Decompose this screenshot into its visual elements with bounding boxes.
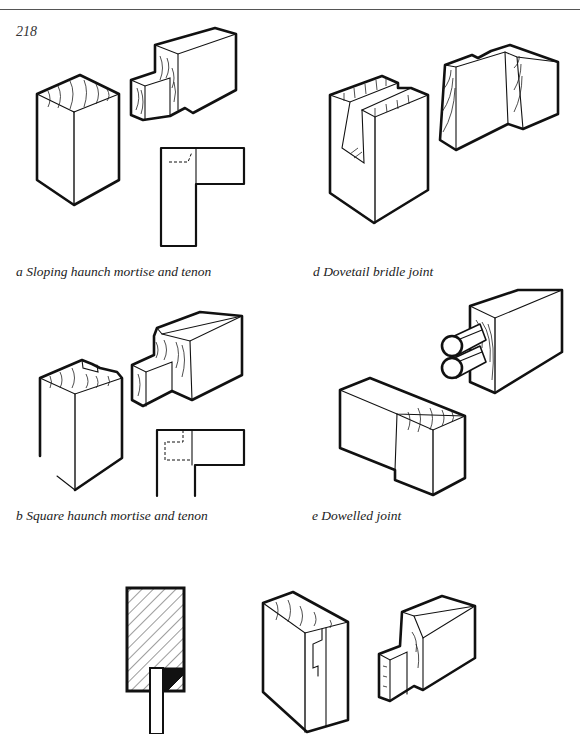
figure-d-dovetail-bridle xyxy=(290,20,580,260)
figure-a-sloping-haunch xyxy=(0,20,290,260)
header-rule xyxy=(0,9,580,10)
figure-e-caption: e Dowelled joint xyxy=(312,508,401,524)
figure-d-caption: d Dovetail bridle joint xyxy=(313,264,433,280)
figure-c-groove-section xyxy=(100,540,480,734)
figure-b-caption: b Square haunch mortise and tenon xyxy=(16,508,208,524)
cross-section-hatched xyxy=(127,588,184,734)
figure-b-square-haunch xyxy=(0,290,290,510)
figure-a-caption: a Sloping haunch mortise and tenon xyxy=(16,264,211,280)
figure-e-dowelled xyxy=(290,290,580,510)
